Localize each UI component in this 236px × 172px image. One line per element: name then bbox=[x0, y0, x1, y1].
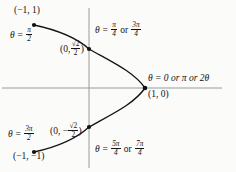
equals-sign: = bbox=[102, 25, 108, 35]
theta-symbol: θ bbox=[95, 144, 100, 154]
fraction-denominator: 4 bbox=[131, 30, 140, 38]
paren-close: ) bbox=[81, 44, 84, 54]
point-marker-0-negsqrt2over2 bbox=[87, 125, 91, 129]
label-theta-zero-or-pi: θ = 0 or π or 2θ bbox=[148, 74, 209, 84]
label-point-zero-neg-sqrt2-over-2: (0, − √2 2 ) bbox=[50, 122, 82, 138]
theta-symbol: θ bbox=[10, 30, 15, 40]
fraction-denominator: 4 bbox=[111, 30, 117, 38]
fraction-denominator: 2 bbox=[24, 134, 33, 142]
label-theta-pi-over-2: θ = π 2 bbox=[10, 26, 32, 42]
point-marker-1-0 bbox=[143, 86, 148, 91]
theta-symbol: θ bbox=[95, 25, 100, 35]
radicand: 2 bbox=[73, 121, 77, 130]
or-word: or bbox=[123, 144, 132, 154]
label-theta-5pi4-or-7pi4: θ = 5π 4 or 7π 4 bbox=[95, 140, 145, 156]
equals-sign: = bbox=[17, 30, 23, 40]
label-theta-pi4-or-3pi4: θ = π 4 or 3π 4 bbox=[95, 21, 141, 37]
equals-sign: = bbox=[102, 144, 108, 154]
paren-open: (0, − bbox=[50, 126, 68, 136]
paren-close: ) bbox=[79, 126, 82, 136]
fraction-3pi-over-2: 3π 2 bbox=[24, 125, 33, 141]
fraction-denominator: 2 bbox=[68, 131, 78, 139]
fraction-sqrt2-over-2: √2 2 bbox=[68, 122, 78, 138]
fraction-7pi-over-4: 7π 4 bbox=[135, 140, 144, 156]
fraction-denominator: 2 bbox=[26, 35, 32, 43]
polar-curve-figure: (−1, 1) θ = π 2 θ = π 4 or 3π 4 (0, √2 2… bbox=[0, 0, 236, 172]
label-point-zero-sqrt2-over-2: (0, √2 2 ) bbox=[60, 40, 84, 56]
fraction-denominator: 4 bbox=[111, 149, 120, 157]
fraction-pi-over-4: π 4 bbox=[111, 21, 117, 37]
fraction-sqrt2-over-2: √2 2 bbox=[71, 40, 81, 56]
fraction-5pi-over-4: 5π 4 bbox=[111, 140, 120, 156]
equals-sign: = bbox=[15, 129, 21, 139]
fraction-denominator: 4 bbox=[135, 149, 144, 157]
or-word: or bbox=[120, 25, 129, 35]
fraction-pi-over-2: π 2 bbox=[26, 26, 32, 42]
paren-open: (0, bbox=[60, 44, 70, 54]
label-point-bottom-left: (−1, −1) bbox=[13, 152, 44, 162]
point-marker-0-sqrt2over2 bbox=[87, 47, 91, 51]
radicand: 2 bbox=[76, 39, 80, 48]
fraction-denominator: 2 bbox=[71, 49, 81, 57]
label-point-top-left: (−1, 1) bbox=[14, 6, 40, 16]
fraction-3pi-over-4: 3π 4 bbox=[131, 21, 140, 37]
point-marker-neg1-1 bbox=[32, 23, 36, 27]
label-point-one-zero: (1, 0) bbox=[148, 90, 169, 100]
theta-symbol: θ bbox=[8, 129, 13, 139]
label-theta-3pi-over-2: θ = 3π 2 bbox=[8, 125, 34, 141]
